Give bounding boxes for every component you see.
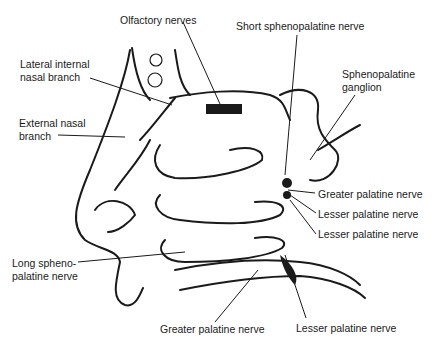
olfactory-patch xyxy=(206,104,242,114)
label-greater-palatine-nerve-right: Greater palatine nerve xyxy=(318,188,422,200)
label-short-sphenopalatine-nerve: Short sphenopalatine nerve xyxy=(236,20,364,32)
label-sphenopalatine-ganglion-line1: Sphenopalatine xyxy=(342,68,415,80)
label-long-sphenopalatine-nerve-line2: palatine nerve xyxy=(12,270,78,282)
nasal-cavity-drawing xyxy=(0,0,442,350)
label-lateral-internal-nasal-branch-line1: Lateral internal xyxy=(20,58,89,70)
label-olfactory-nerves: Olfactory nerves xyxy=(120,14,196,26)
label-lesser-palatine-nerve-bottom: Lesser palatine nerve xyxy=(296,322,396,334)
label-greater-palatine-nerve-bottom: Greater palatine nerve xyxy=(160,323,264,335)
label-external-nasal-branch-line2: branch xyxy=(19,130,51,142)
label-lateral-internal-nasal-branch-line2: nasal branch xyxy=(20,71,80,83)
label-external-nasal-branch-line1: External nasal xyxy=(19,117,86,129)
label-long-sphenopalatine-nerve-line1: Long spheno- xyxy=(12,257,76,269)
anatomy-diagram: Olfactory nerves Short sphenopalatine ne… xyxy=(0,0,442,350)
label-lesser-palatine-nerve-right-1: Lesser palatine nerve xyxy=(318,208,418,220)
label-sphenopalatine-ganglion-line2: ganglion xyxy=(342,81,382,93)
label-lesser-palatine-nerve-right-2: Lesser palatine nerve xyxy=(318,228,418,240)
